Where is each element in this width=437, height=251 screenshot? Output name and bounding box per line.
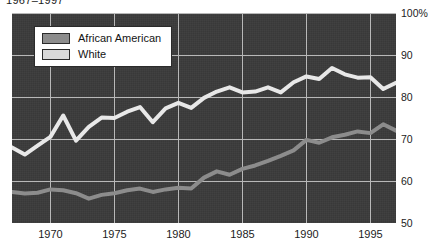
x-axis-labels: 197019751980198519901995 xyxy=(0,228,437,244)
legend-swatch-african-american xyxy=(42,33,70,44)
legend-item-white: White xyxy=(42,48,161,61)
legend-item-african-american: African American xyxy=(42,32,161,45)
x-axis-tick-label: 1985 xyxy=(230,228,254,240)
x-axis-tick-label: 1980 xyxy=(166,228,190,240)
y-axis-tick-label: 70 xyxy=(401,133,413,145)
caption-strip: 1967–1997 xyxy=(0,0,437,9)
y-axis-tick-label: 90 xyxy=(401,49,413,61)
y-axis-labels: 100%9080706050 xyxy=(401,0,437,251)
legend-label-african-american: African American xyxy=(78,33,161,44)
line-african-american xyxy=(12,124,396,198)
x-axis-tick-label: 1970 xyxy=(38,228,62,240)
x-axis-tick-label: 1990 xyxy=(294,228,318,240)
line-white xyxy=(12,68,396,155)
legend-swatch-white xyxy=(42,49,70,60)
chart-legend: African American White xyxy=(34,26,172,67)
y-axis-tick-label: 80 xyxy=(401,91,413,103)
legend-label-white: White xyxy=(78,49,106,60)
chart-caption: 1967–1997 xyxy=(6,0,64,6)
x-axis-tick-label: 1975 xyxy=(102,228,126,240)
y-axis-tick-label: 60 xyxy=(401,175,413,187)
y-axis-tick-label: 100% xyxy=(401,7,428,19)
chart-figure: 1967–1997 African American White 1970197… xyxy=(0,0,437,251)
y-axis-tick-label: 50 xyxy=(401,217,413,229)
x-axis-tick-label: 1995 xyxy=(358,228,382,240)
